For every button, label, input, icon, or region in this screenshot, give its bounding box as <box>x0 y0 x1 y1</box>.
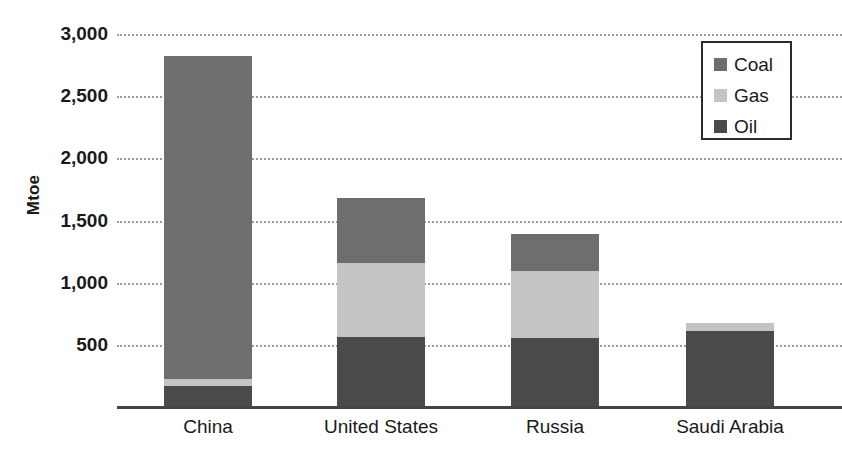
bar-segment-gas[interactable] <box>337 263 425 338</box>
x-tick-label: Saudi Arabia <box>676 416 784 438</box>
bar-segment-oil[interactable] <box>686 331 774 408</box>
x-axis-line <box>117 406 842 409</box>
y-tick-label: 1,500 <box>0 210 108 232</box>
bar-segment-oil[interactable] <box>337 337 425 408</box>
legend-swatch-icon <box>714 58 727 71</box>
y-tick-label: 3,000 <box>0 23 108 45</box>
bar-segment-gas[interactable] <box>164 379 252 386</box>
legend-item-label: Gas <box>734 86 769 105</box>
legend-swatch-icon <box>714 120 727 133</box>
bar-group[interactable] <box>164 21 252 408</box>
x-tick-label: Russia <box>526 416 584 438</box>
legend-item-coal[interactable]: Coal <box>714 49 790 80</box>
y-axis-tick-labels: 5001,0001,5002,0002,5003,000 <box>0 0 108 462</box>
bar-stack <box>511 234 599 408</box>
legend-item-label: Oil <box>734 117 757 136</box>
legend-item-label: Coal <box>734 55 773 74</box>
legend-item-oil[interactable]: Oil <box>714 111 790 142</box>
y-tick-label: 2,000 <box>0 147 108 169</box>
bar-segment-gas[interactable] <box>511 271 599 338</box>
bar-stack <box>164 56 252 408</box>
bar-segment-gas[interactable] <box>686 323 774 331</box>
bar-stack <box>686 323 774 408</box>
y-tick-label: 2,500 <box>0 85 108 107</box>
bar-segment-coal[interactable] <box>511 234 599 271</box>
bar-segment-oil[interactable] <box>511 338 599 408</box>
legend-swatch-icon <box>714 89 727 102</box>
x-tick-label: China <box>183 416 233 438</box>
y-tick-label: 1,000 <box>0 272 108 294</box>
bar-segment-oil[interactable] <box>164 386 252 408</box>
legend-item-gas[interactable]: Gas <box>714 80 790 111</box>
y-tick-label: 500 <box>0 334 108 356</box>
bar-segment-coal[interactable] <box>164 56 252 379</box>
bar-stack <box>337 198 425 408</box>
bar-group[interactable] <box>337 21 425 408</box>
bar-segment-coal[interactable] <box>337 198 425 263</box>
x-tick-label: United States <box>324 416 438 438</box>
chart-legend: CoalGasOil <box>701 41 792 140</box>
stacked-bar-chart: Mtoe 5001,0001,5002,0002,5003,000 ChinaU… <box>0 0 842 462</box>
bar-group[interactable] <box>511 21 599 408</box>
